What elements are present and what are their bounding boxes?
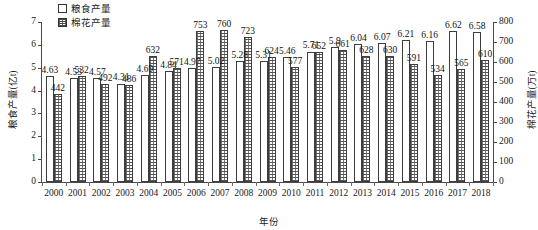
y-axis-right-tick-label: 0 (499, 177, 504, 186)
x-axis-tick (398, 182, 399, 186)
y-axis-left-tick (38, 113, 42, 114)
y-axis-right-tick-label: 400 (499, 97, 513, 106)
y-axis-left-tick (38, 136, 42, 137)
bar-grain (70, 78, 78, 182)
bar-grain (236, 61, 244, 182)
plot-area: 0123456701002003004005006007008004.63442… (41, 22, 494, 183)
x-axis-tick-label: 2009 (256, 188, 280, 198)
x-axis-tick-label: 2003 (113, 188, 137, 198)
x-axis-tick (279, 182, 280, 186)
x-axis-tick (208, 182, 209, 186)
x-axis-tick-label: 2012 (327, 188, 351, 198)
x-axis-tick-label: 2001 (66, 188, 90, 198)
x-axis-tick-label: 2013 (351, 188, 375, 198)
bar-cotton (78, 76, 86, 182)
x-axis-tick-label: 2007 (208, 188, 232, 198)
bar-value-label-grain: 6.21 (393, 29, 419, 39)
bar-grain (449, 31, 457, 182)
bar-value-label-grain: 4.97 (179, 57, 205, 67)
x-axis-tick-label: 2000 (42, 188, 66, 198)
bar-grain (426, 41, 434, 182)
bar-grain (93, 78, 101, 182)
x-axis-tick-label: 2018 (469, 188, 493, 198)
y-axis-right-tick-label: 800 (499, 17, 513, 26)
x-axis-tick (66, 182, 67, 186)
bar-value-label-grain: 6.62 (440, 20, 466, 30)
x-axis-tick-label: 2004 (137, 188, 161, 198)
y-axis-right-tick (493, 42, 497, 43)
y-axis-left-tick-label: 6 (31, 40, 36, 49)
x-axis-tick (422, 182, 423, 186)
y-axis-left-tick-label: 5 (31, 63, 36, 72)
bar-cotton (268, 57, 276, 182)
bar-value-label-cotton: 760 (212, 19, 236, 29)
bar-cotton (339, 50, 347, 182)
bar-cotton (315, 52, 323, 182)
y-axis-left-tick (38, 159, 42, 160)
y-axis-left-tick-label: 3 (31, 108, 36, 117)
bar-cotton (149, 56, 157, 182)
x-axis-tick (232, 182, 233, 186)
bar-grain (117, 84, 125, 183)
bar-cotton (54, 94, 62, 182)
x-axis-tick-label: 2005 (161, 188, 185, 198)
bar-grain (188, 68, 196, 182)
y-axis-left-tick-label: 7 (31, 17, 36, 26)
x-axis-tick-label: 2002 (89, 188, 113, 198)
bar-value-label-grain: 6.58 (464, 21, 490, 31)
bar-value-label-cotton: 442 (46, 83, 70, 93)
x-axis-tick (493, 182, 494, 186)
legend-item-grain: 粮食产量 (58, 2, 111, 15)
y-axis-right-tick (493, 22, 497, 23)
x-axis-tick (469, 182, 470, 186)
bar-value-label-grain: 5.02 (203, 56, 229, 66)
y-axis-left-title: 粮食产量(亿t) (5, 55, 19, 145)
y-axis-right-tick (493, 102, 497, 103)
x-axis-tick-label: 2014 (374, 188, 398, 198)
y-axis-left-tick-label: 2 (31, 131, 36, 140)
bar-value-label-cotton: 591 (402, 53, 426, 63)
bar-value-label-cotton: 723 (236, 26, 260, 36)
y-axis-right-tick (493, 142, 497, 143)
x-axis-tick-label: 2015 (398, 188, 422, 198)
bar-grain (331, 47, 339, 182)
bar-cotton (125, 85, 133, 182)
bar-grain (354, 44, 362, 182)
bar-cotton (291, 67, 299, 182)
x-axis-tick (351, 182, 352, 186)
bar-cotton (434, 75, 442, 182)
x-axis-title: 年份 (0, 214, 537, 228)
bar-cotton (386, 56, 394, 182)
y-axis-right-tick (493, 162, 497, 163)
y-axis-left-tick-label: 0 (31, 177, 36, 186)
y-axis-left-tick (38, 91, 42, 92)
bar-value-label-cotton: 628 (354, 45, 378, 55)
bar-grain (141, 75, 149, 182)
x-axis-tick-label: 2011 (303, 188, 327, 198)
y-axis-right-tick-label: 100 (499, 157, 513, 166)
y-axis-right-tick-label: 600 (499, 57, 513, 66)
bar-grain (260, 61, 268, 182)
bar-value-label-cotton: 610 (473, 49, 497, 59)
legend-label-grain: 粮食产量 (71, 4, 111, 14)
bar-value-label-grain: 6.04 (345, 33, 371, 43)
bar-value-label-cotton: 577 (283, 56, 307, 66)
bar-value-label-grain: 5.28 (227, 50, 253, 60)
bar-value-label-grain: 4.69 (132, 64, 158, 74)
bar-grain (165, 71, 173, 182)
x-axis-tick (256, 182, 257, 186)
y-axis-right-tick-label: 500 (499, 77, 513, 86)
legend-swatch-grain (58, 4, 67, 13)
bar-grain (378, 43, 386, 182)
bar-cotton (481, 60, 489, 182)
y-axis-left-tick-label: 4 (31, 86, 36, 95)
y-axis-left-tick-label: 1 (31, 154, 36, 163)
bar-cotton (457, 69, 465, 182)
y-axis-right-tick-label: 200 (499, 137, 513, 146)
bar-cotton (196, 31, 204, 182)
bar-grain (283, 57, 291, 182)
bar-cotton (362, 56, 370, 182)
x-axis-tick (374, 182, 375, 186)
legend-label-cotton: 棉花产量 (71, 18, 111, 28)
